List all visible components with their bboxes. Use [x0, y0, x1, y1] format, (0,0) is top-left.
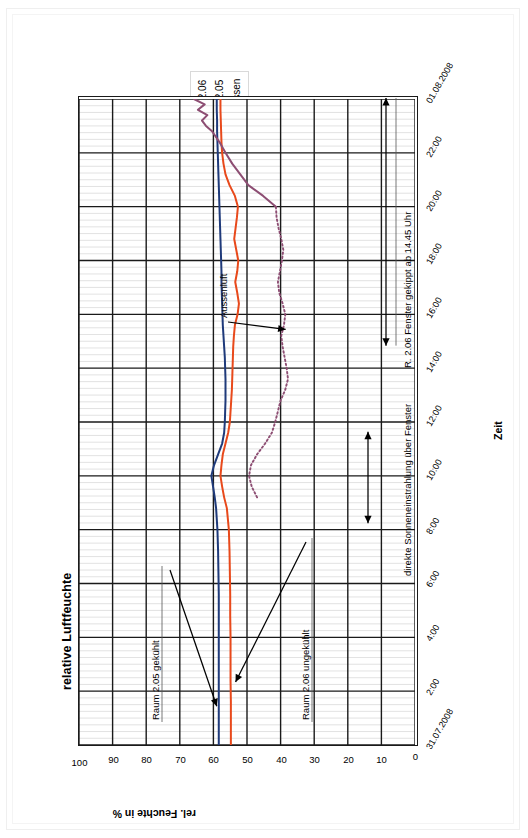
y-tick-label: 20 [343, 754, 354, 776]
y-tick-label: 60 [208, 754, 219, 776]
x-tick-label: 18:00 [424, 242, 444, 267]
x-tick-label: 31.07.2008 [424, 707, 455, 751]
plot-svg [79, 99, 415, 745]
y-axis-title: rel. Feuchte in % [113, 808, 196, 820]
annotation-raum-205-gekuehlt: Raum 2.05 gekühlt [150, 640, 161, 720]
rotated-chart-stage: relative Luftfeuchte R. 2.06 R. 2.05 Aus… [0, 0, 528, 838]
annotation-fenster-gekippt: R. 2.06 Fenster gekippt ab 14.45 Uhr [402, 212, 413, 368]
y-tick-label: 70 [175, 754, 186, 776]
plot-area [78, 96, 418, 746]
annotation-sonneneinstrahlung: direkte Sonneneinstrahlung über Fenster [402, 404, 413, 576]
series-line-aussen-solid [194, 99, 276, 207]
x-tick-label: 22:00 [424, 134, 444, 159]
x-tick-label: 12:00 [424, 403, 444, 428]
y-tick-label: 30 [309, 754, 320, 776]
x-tick-label: 2:00 [424, 677, 441, 697]
series-line-r-2-06 [220, 99, 238, 745]
y-tick-label: 40 [276, 754, 287, 776]
annotation-aussenluft: Aussenluft [218, 274, 229, 318]
x-tick-label: 01.08.2008 [424, 61, 455, 105]
series-line-r-2-05 [211, 99, 225, 745]
y-tick-label: 100 [74, 754, 85, 776]
page-title: relative Luftfeuchte [60, 573, 74, 690]
x-tick-label: 20:00 [424, 188, 444, 213]
x-tick-label: 8:00 [424, 515, 441, 535]
x-tick-label: 4:00 [424, 623, 441, 643]
series-line-aussen [249, 207, 288, 498]
x-tick-label: 16:00 [424, 296, 444, 321]
x-tick-label: 10:00 [424, 457, 444, 482]
y-tick-label: 90 [108, 754, 119, 776]
y-tick-label: 10 [376, 754, 387, 776]
y-tick-label: 50 [242, 754, 253, 776]
chart-page: relative Luftfeuchte R. 2.06 R. 2.05 Aus… [0, 0, 528, 838]
y-tick-label: 80 [141, 754, 152, 776]
y-tick-label: 0 [410, 754, 421, 776]
x-tick-label: 14:00 [424, 350, 444, 375]
x-tick-label: 6:00 [424, 569, 441, 589]
x-axis-title: Zeit [492, 421, 504, 440]
annotation-raum-206-ungekuehlt: Raum 2.06 ungekühlt [300, 630, 311, 720]
